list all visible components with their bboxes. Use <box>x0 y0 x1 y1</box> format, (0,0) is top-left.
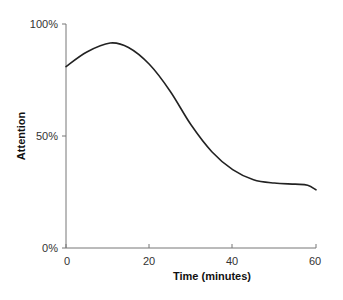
y-tick-label: 100% <box>30 18 58 30</box>
x-tick-label: 40 <box>226 255 238 267</box>
x-tick-label: 20 <box>143 255 155 267</box>
attention-line-chart: 100% 50% 0% Attention 0 20 40 60 Time (m… <box>0 0 343 300</box>
y-axis-title: Attention <box>15 112 27 161</box>
x-axis-title: Time (minutes) <box>173 270 251 282</box>
attention-curve <box>66 43 316 190</box>
y-axis: 100% 50% 0% Attention <box>15 18 66 254</box>
x-axis: 0 20 40 60 Time (minutes) <box>64 244 321 282</box>
y-tick-label: 0% <box>42 242 58 254</box>
x-tick-label: 0 <box>64 255 70 267</box>
y-tick-label: 50% <box>36 130 58 142</box>
x-tick-label: 60 <box>309 255 321 267</box>
